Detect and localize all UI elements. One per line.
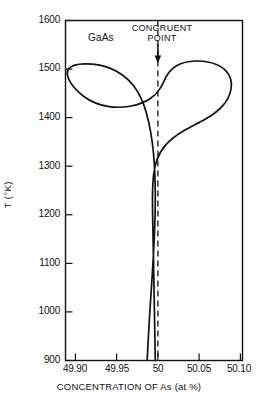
y-tick-label-1600: 1600 (16, 15, 60, 25)
x-tick-label-50-10: 50.10 (219, 364, 258, 374)
y-axis-title: T (°K) (3, 171, 13, 219)
y-tick-label-1300: 1300 (16, 161, 60, 171)
congruent-point-label-line1: CONGRUENT (117, 24, 207, 33)
congruent-point-label-line2: POINT (117, 34, 207, 43)
phase-diagram-figure: 1600 1500 1400 1300 1200 1100 1000 900 4… (0, 0, 258, 404)
x-tick-label-50: 50 (137, 364, 179, 374)
x-tick-label-49-90: 49.90 (54, 364, 96, 374)
x-axis-title: CONCENTRATION OF As (at %) (0, 382, 258, 392)
chart-canvas (0, 0, 258, 404)
y-tick-label-1400: 1400 (16, 112, 60, 122)
y-tick-label-1500: 1500 (16, 63, 60, 73)
material-label-gaas: GaAs (88, 33, 114, 43)
x-tick-label-49-95: 49.95 (96, 364, 138, 374)
x-tick-label-50-05: 50.05 (178, 364, 220, 374)
y-tick-label-1100: 1100 (16, 258, 60, 268)
y-tick-label-1200: 1200 (16, 209, 60, 219)
y-tick-label-1000: 1000 (16, 306, 60, 316)
